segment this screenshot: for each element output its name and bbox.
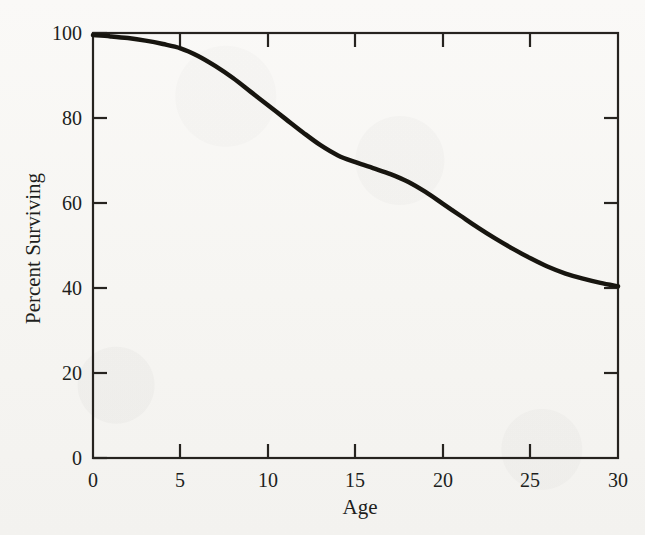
- xtick-label-10: 10: [248, 470, 288, 490]
- y-axis-title: Percent Surviving: [23, 149, 44, 349]
- xtick-label-20: 20: [423, 470, 463, 490]
- xtick-label-25: 25: [510, 470, 550, 490]
- survival-curve-line: [93, 35, 618, 286]
- axes-spines: [93, 33, 618, 458]
- ytick-label-100: 100: [26, 23, 82, 43]
- xtick-label-0: 0: [73, 470, 113, 490]
- x-axis-title: Age: [310, 497, 410, 518]
- xtick-label-30: 30: [598, 470, 638, 490]
- ytick-label-0: 0: [26, 448, 82, 468]
- ytick-label-80: 80: [26, 108, 82, 128]
- x-axis-ticks: [180, 33, 530, 458]
- figure-canvas: 100 80 60 40 20 0 0 5 10 15 20 25 30 Age…: [0, 0, 645, 535]
- xtick-label-15: 15: [335, 470, 375, 490]
- plot-frame: [93, 33, 618, 458]
- survival-curve-plot: [0, 0, 645, 535]
- xtick-label-5: 5: [160, 470, 200, 490]
- y-axis-ticks: [93, 33, 618, 458]
- ytick-label-20: 20: [26, 363, 82, 383]
